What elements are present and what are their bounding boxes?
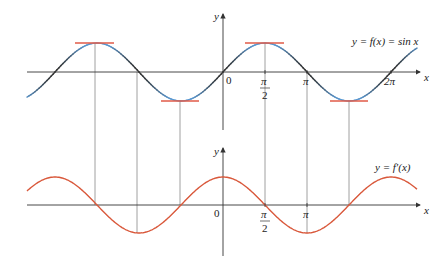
bottom-x-label: x (423, 204, 429, 216)
bottom-tick-pi-half-den: 2 (262, 222, 268, 234)
diagram-canvas: y x 0 π 2 π 2π y = f(x) = sin x y x 0 π … (0, 0, 440, 261)
bottom-origin-label: 0 (214, 207, 220, 219)
top-x-label: x (423, 71, 429, 83)
bottom-curve-label: y = f′(x) (374, 161, 411, 174)
bottom-tick-pi: π (303, 208, 309, 220)
top-tick-pi-half-num: π (261, 75, 267, 87)
top-tick-pi: π (303, 75, 309, 87)
connector-lines (95, 43, 349, 233)
bottom-axes (27, 148, 420, 256)
bottom-tick-pi-half-num: π (261, 208, 267, 220)
bottom-y-label: y (213, 145, 219, 157)
derivative-diagram: y x 0 π 2 π 2π y = f(x) = sin x y x 0 π … (0, 0, 440, 261)
top-curve-label: y = f(x) = sin x (351, 35, 419, 48)
top-tick-pi-half-den: 2 (262, 89, 268, 101)
top-y-label: y (213, 10, 219, 22)
top-tick-2pi: 2π (384, 75, 396, 87)
top-origin-label: 0 (226, 74, 232, 86)
